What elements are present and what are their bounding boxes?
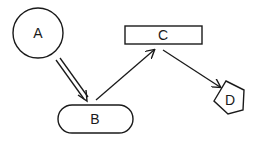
edge-b-to-c — [96, 50, 154, 100]
edge-b-c-line — [96, 50, 154, 100]
diagram-canvas: A B C D — [0, 0, 257, 141]
edge-a-b-line-2 — [60, 58, 88, 97]
node-d-label: D — [225, 92, 235, 108]
edge-c-to-d — [163, 50, 220, 87]
edge-a-b-line-1 — [56, 60, 84, 99]
node-c-label: C — [158, 27, 168, 43]
edge-a-to-b — [56, 58, 88, 101]
node-b: B — [58, 105, 133, 133]
node-b-label: B — [90, 111, 99, 127]
node-a-label: A — [33, 25, 43, 41]
node-a: A — [13, 8, 63, 58]
diagram-svg: A B C D — [0, 0, 257, 141]
node-c: C — [125, 26, 202, 44]
edge-c-d-line — [163, 50, 220, 87]
